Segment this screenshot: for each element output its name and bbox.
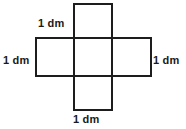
- top-square: [74, 4, 112, 38]
- right-square: [112, 38, 151, 76]
- dimension-label-right: 1 dm: [153, 54, 179, 67]
- dimension-label-bottom: 1 dm: [73, 113, 99, 126]
- cross-net-figure: 1 dm 1 dm 1 dm 1 dm: [0, 0, 186, 129]
- left-square: [36, 38, 74, 76]
- bottom-square: [74, 76, 112, 110]
- dimension-label-left: 1 dm: [3, 54, 29, 67]
- dimension-label-top: 1 dm: [38, 17, 64, 30]
- center-square: [74, 38, 112, 76]
